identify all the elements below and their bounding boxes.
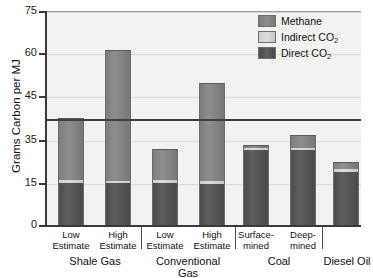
group-line1: Diesel Oil	[292, 255, 373, 267]
legend-item[interactable]: Methane	[258, 13, 338, 28]
legend-item[interactable]: Direct CO2	[258, 45, 338, 60]
x-tick-line2: Estimate	[91, 241, 145, 252]
legend-swatch-icon	[258, 15, 276, 27]
y-axis-tick-label: 35	[3, 134, 37, 145]
y-axis-tick-label: 75	[3, 5, 37, 16]
legend-label-text: Indirect CO	[281, 31, 334, 43]
legend-swatch-icon	[258, 47, 276, 59]
x-axis-tick-label: HighEstimate	[91, 230, 145, 251]
x-tick-line1: High	[91, 230, 145, 241]
legend-item-label: Methane	[281, 15, 322, 27]
x-tick-line1: Low	[138, 230, 192, 241]
group-line2: Gas	[133, 267, 243, 278]
y-axis-tick-label: 60	[3, 47, 37, 58]
x-tick-line1: Low	[44, 230, 98, 241]
bar-1[interactable]	[58, 118, 84, 225]
bar-segment-direct	[243, 150, 269, 225]
x-tick-line2: mined	[229, 241, 283, 252]
bar-segment-direct	[105, 183, 131, 225]
group-separator	[235, 227, 236, 249]
reference-line	[46, 119, 361, 121]
bar-segment-methane	[152, 149, 178, 181]
legend: MethaneIndirect CO2Direct CO2	[258, 13, 338, 61]
legend-swatch-icon	[258, 31, 276, 43]
y-axis-tick-label: 0	[3, 219, 37, 230]
group-separator	[141, 227, 142, 249]
x-axis-tick-label: Surface-mined	[229, 230, 283, 251]
bar-segment-direct	[199, 184, 225, 225]
bar-4[interactable]	[199, 83, 225, 225]
x-tick-line2: Estimate	[44, 241, 98, 252]
bar-segment-methane	[290, 135, 316, 148]
y-axis-tick-mark	[39, 11, 45, 13]
bar-segment-methane	[199, 83, 225, 181]
legend-item[interactable]: Indirect CO2	[258, 29, 338, 44]
bar-6[interactable]	[290, 135, 316, 225]
bar-segment-direct	[333, 172, 359, 225]
bar-segment-direct	[58, 183, 84, 225]
y-axis-tick-mark	[39, 96, 45, 98]
bar-2[interactable]	[105, 50, 131, 225]
bar-segment-methane	[333, 162, 359, 170]
bar-3[interactable]	[152, 149, 178, 225]
bar-segment-methane	[105, 50, 131, 181]
x-tick-line2: Estimate	[138, 241, 192, 252]
legend-label-text: Direct CO	[281, 47, 327, 59]
x-axis-tick-label: LowEstimate	[138, 230, 192, 251]
y-axis-tick-mark	[39, 53, 45, 55]
y-axis-labels: 01535456075	[0, 0, 37, 278]
legend-label-subscript: 2	[334, 36, 338, 45]
bar-segment-direct	[152, 183, 178, 225]
bar-segment-direct	[290, 150, 316, 225]
legend-item-label: Indirect CO2	[281, 31, 338, 43]
y-axis-tick-label: 45	[3, 90, 37, 101]
legend-item-label: Direct CO2	[281, 47, 331, 59]
x-axis-tick-label: LowEstimate	[44, 230, 98, 251]
x-axis-group-label: Diesel Oil	[292, 255, 373, 267]
x-axis-line	[45, 225, 361, 227]
bar-segment-methane	[58, 118, 84, 180]
chart-container: Grams Carbon per MJ 01535456075 LowEstim…	[0, 0, 373, 278]
bar-7[interactable]	[333, 162, 359, 225]
legend-label-text: Methane	[281, 15, 322, 27]
y-axis-tick-mark	[39, 140, 45, 142]
y-axis-tick-label: 15	[3, 177, 37, 188]
bar-5[interactable]	[243, 145, 269, 225]
legend-label-subscript: 2	[327, 52, 331, 61]
y-axis-tick-mark	[39, 225, 45, 227]
x-tick-line1: Surface-	[229, 230, 283, 241]
group-separator	[322, 227, 323, 249]
y-axis-tick-mark	[39, 183, 45, 185]
